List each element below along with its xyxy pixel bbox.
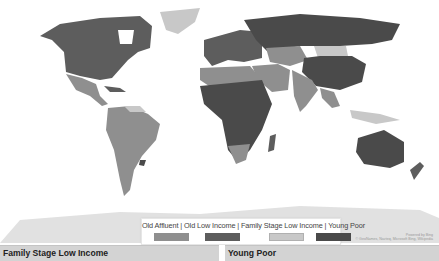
legend-swatch-old-low-income xyxy=(205,233,240,241)
panel-header-young-poor[interactable]: Young Poor xyxy=(225,245,439,261)
legend-swatch-old-affluent xyxy=(154,233,189,241)
legend-labels: Old Affluent | Old Low Income | Family S… xyxy=(142,221,340,230)
world-choropleth-map[interactable] xyxy=(0,0,439,243)
panel-title: Young Poor xyxy=(228,248,276,258)
panel-title: Family Stage Low Income xyxy=(3,248,108,258)
map-legend: Old Affluent | Old Low Income | Family S… xyxy=(141,218,341,245)
map-attribution: Powered by Bing © GeoNames, Navteq, Micr… xyxy=(355,233,433,241)
legend-swatch-young-poor xyxy=(316,233,351,241)
panel-header-family-stage-low-income[interactable]: Family Stage Low Income xyxy=(0,245,219,261)
legend-swatch-family-stage-low-income xyxy=(269,233,304,241)
